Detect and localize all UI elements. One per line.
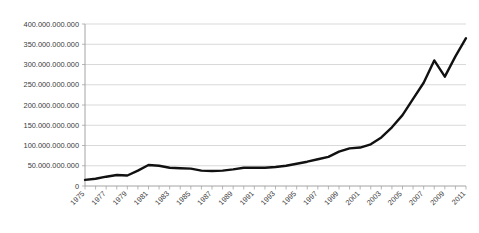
x-axis-tick-label: 1975 [68, 189, 86, 207]
line-chart: 400.000.000.000350.000.000.000300.000.00… [0, 0, 479, 233]
x-axis-tick-label: 1981 [132, 189, 150, 207]
x-axis-tick-label: 1989 [217, 189, 235, 207]
x-axis-tick-label: 2005 [386, 189, 404, 207]
y-axis-tick-label: 150.000.000.000 [24, 121, 79, 130]
x-axis-tick-label: 1977 [90, 189, 108, 207]
x-axis-tick-label: 2007 [407, 189, 425, 207]
x-axis-labels-group: 1975197719791981198319851987198919911993… [68, 189, 467, 207]
chart-canvas: 400.000.000.000350.000.000.000300.000.00… [0, 0, 479, 233]
x-axis-tick-label: 1995 [280, 189, 298, 207]
x-axis-tick-label: 2009 [428, 189, 446, 207]
x-axis-tick-label: 1979 [111, 189, 129, 207]
y-axis-labels-group: 400.000.000.000350.000.000.000300.000.00… [24, 20, 79, 191]
y-axis-tick-label: 200.000.000.000 [24, 101, 79, 110]
x-axis-tick-label: 1991 [238, 189, 256, 207]
y-axis-tick-label: 100.000.000.000 [24, 141, 79, 150]
y-axis-tick-label: 400.000.000.000 [24, 20, 79, 29]
y-axis-tick-label: 250.000.000.000 [24, 80, 79, 89]
x-axis-tick-label: 1983 [153, 189, 171, 207]
x-axis-tick-label: 2011 [450, 189, 468, 207]
x-axis-tick-label: 2003 [365, 189, 383, 207]
x-axis-tick-label: 1999 [322, 189, 340, 207]
y-axis-tick-label: 350.000.000.000 [24, 40, 79, 49]
x-axis-tick-label: 1987 [195, 189, 213, 207]
x-axis-ticks-group [85, 186, 466, 190]
data-series-line [85, 38, 466, 180]
x-axis-tick-label: 1985 [174, 189, 192, 207]
x-axis-tick-label: 2001 [344, 189, 362, 207]
y-axis-tick-label: 50.000.000.000 [28, 161, 79, 170]
x-axis-tick-label: 1997 [301, 189, 319, 207]
y-axis-tick-label: 300.000.000.000 [24, 60, 79, 69]
x-axis-tick-label: 1993 [259, 189, 277, 207]
